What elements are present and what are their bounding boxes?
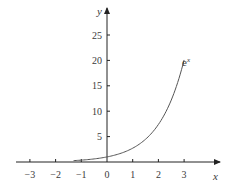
y-tick-label: 20 xyxy=(92,55,102,66)
chart-canvas: −3−2−10123 510152025 x y ex xyxy=(0,0,230,186)
curve-label-exponent: x xyxy=(186,56,191,64)
y-axis-label: y xyxy=(96,5,102,17)
exponential-chart: −3−2−10123 510152025 x y ex xyxy=(0,0,230,186)
exp-curve xyxy=(74,60,185,161)
y-tick-label: 10 xyxy=(92,106,102,117)
curve-label: ex xyxy=(182,56,191,68)
x-tick-label: −1 xyxy=(76,169,87,180)
x-axis-label: x xyxy=(212,170,218,182)
x-tick-label: 0 xyxy=(105,169,110,180)
x-tick-label: 2 xyxy=(156,169,161,180)
y-tick-label: 5 xyxy=(97,131,102,142)
x-tick-label: −2 xyxy=(50,169,61,180)
x-tick-label: −3 xyxy=(25,169,36,180)
y-tick-label: 25 xyxy=(92,30,102,41)
y-tick-label: 15 xyxy=(92,80,102,91)
x-tick-label: 1 xyxy=(130,169,135,180)
x-tick-label: 3 xyxy=(182,169,187,180)
